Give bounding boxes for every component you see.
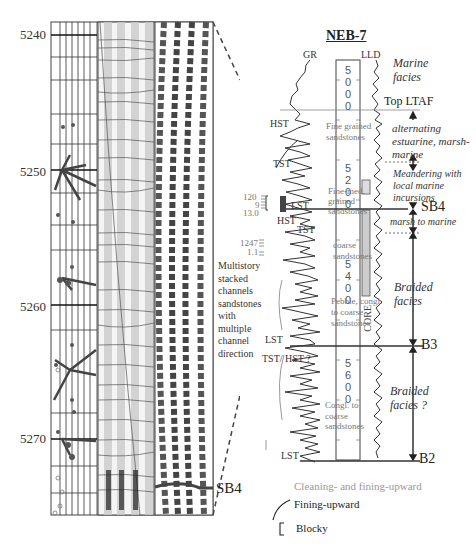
boundary-b2: B2 bbox=[419, 451, 435, 467]
sb4-left-label: SB4 bbox=[216, 480, 242, 497]
legend-blocky: Blocky bbox=[296, 522, 328, 534]
top-ltaf: Top LTAF bbox=[384, 94, 433, 109]
tract-lst-1: LST bbox=[291, 200, 309, 211]
tract-hst-1: HST bbox=[270, 118, 289, 129]
scale-1-1: 1.1 bbox=[247, 247, 258, 257]
image-log-svg bbox=[0, 0, 240, 555]
lithology-congl: Congl. to coarse sandstones bbox=[325, 400, 377, 432]
facies-marsh-marine: marsh to marine bbox=[390, 215, 456, 229]
fining-upward-icon bbox=[270, 494, 294, 522]
tract-lst-3: LST bbox=[281, 450, 299, 461]
boundary-b3: B3 bbox=[421, 337, 437, 353]
tract-tst-2: TST bbox=[297, 224, 315, 235]
lithology-fine-med-grained: Fine-med. grained sandstones bbox=[328, 186, 378, 216]
lithology-coarse: coarse sandstones bbox=[333, 240, 385, 262]
blocky-bracket-icon bbox=[277, 521, 287, 537]
depth-label-5000: 5000 bbox=[343, 64, 353, 112]
lithology-fine-grained: Fine grained sandstones bbox=[326, 121, 386, 143]
facies-alternating: alternating estuarine, marsh-marine bbox=[392, 122, 472, 161]
facies-marine: Marine facies bbox=[393, 56, 453, 84]
tract-lst-2: LST bbox=[265, 334, 283, 345]
facies-braided-question: Braided facies ? bbox=[390, 384, 450, 412]
lithology-pebble: Pebble, congl. to coarse sandstones bbox=[331, 296, 383, 329]
tract-tst-hst: TST/ HST ? bbox=[262, 353, 311, 364]
facies-braided: Braided facies bbox=[394, 280, 444, 308]
tract-tst-1: TST bbox=[273, 158, 291, 169]
depth-label-5600: 5600 bbox=[343, 357, 353, 405]
legend-cleaning-fining-upward: Cleaning- and fining-upward bbox=[294, 480, 422, 492]
boundary-sb4: SB4 bbox=[421, 199, 445, 215]
tract-hst-2: HST bbox=[277, 215, 296, 226]
scale-13: 13.0 bbox=[243, 208, 259, 218]
legend-fining-upward: Fining-upward bbox=[294, 498, 359, 510]
